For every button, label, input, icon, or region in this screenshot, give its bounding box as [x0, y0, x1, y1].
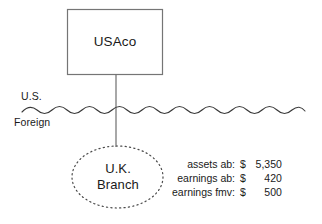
figure-label-earnings-fmv: earnings fmv: [172, 185, 240, 199]
figure-currency-assets-ab: $ [240, 157, 248, 171]
table-row: earnings fmv: $ 500 [172, 185, 282, 199]
figure-amount-earnings-ab: 420 [248, 171, 282, 185]
figure-label-assets-ab: assets ab: [172, 157, 240, 171]
figure-label-earnings-ab: earnings ab: [172, 171, 240, 185]
uk-branch-label-line-1: U.K. [72, 161, 164, 177]
usaco-entity-label: USAco [67, 34, 163, 51]
table-row: earnings ab: $ 420 [172, 171, 282, 185]
figure-currency-earnings-ab: $ [240, 171, 248, 185]
table-row: assets ab: $ 5,350 [172, 157, 282, 171]
figure-amount-assets-ab: 5,350 [248, 157, 282, 171]
uk-branch-label-line-2: Branch [72, 177, 164, 193]
figure-currency-earnings-fmv: $ [240, 185, 248, 199]
uk-branch-entity-label: U.K. Branch [72, 161, 164, 194]
border-wavy-line [22, 107, 305, 114]
branch-figures-table: assets ab: $ 5,350 earnings ab: $ 420 ea… [172, 157, 282, 200]
foreign-side-label: Foreign [14, 116, 50, 128]
diagram-canvas: USAco U.K. Branch U.S. Foreign assets ab… [0, 0, 322, 224]
figure-amount-earnings-fmv: 500 [248, 185, 282, 199]
us-side-label: U.S. [21, 90, 42, 102]
